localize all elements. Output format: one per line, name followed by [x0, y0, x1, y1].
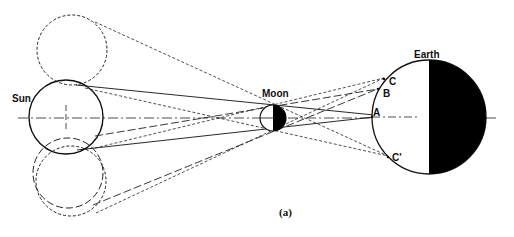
point-c-label: C	[389, 76, 396, 87]
ray-solid-top	[76, 85, 374, 115]
figure-caption: (a)	[279, 206, 292, 219]
moon-label: Moon	[262, 88, 289, 99]
earth-label: Earth	[414, 49, 440, 60]
ray-lower-sun-to-b-1	[95, 89, 378, 136]
point-cprime-marker	[387, 156, 390, 159]
ray-solid-bottom	[77, 117, 374, 150]
point-a-label: A	[373, 107, 380, 118]
point-b-label: B	[383, 88, 390, 99]
point-c-marker	[383, 78, 386, 81]
ray-upper-sun-to-cprime	[95, 22, 390, 157]
sun-label: Sun	[12, 93, 31, 104]
ray-lower-sun-to-c-1	[95, 78, 384, 148]
point-b-marker	[377, 88, 380, 91]
sun-upper-position	[37, 15, 107, 85]
ray-lower-sun-to-b-2	[93, 88, 380, 205]
point-cprime-label: C'	[392, 152, 402, 163]
earth-night-side	[429, 60, 486, 174]
eclipse-geometry-diagram: Sun Moon Earth C B A C' (a)	[0, 0, 514, 237]
sun-lower-position-b	[36, 146, 106, 216]
ray-sun-top-to-cprime	[85, 88, 388, 156]
